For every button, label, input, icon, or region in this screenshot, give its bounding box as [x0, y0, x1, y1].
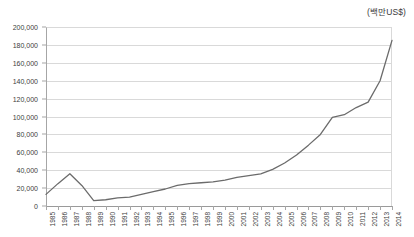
x-axis-tickmark — [237, 206, 238, 210]
x-axis-tick-label: 1985 — [49, 212, 56, 226]
x-axis-tickmark — [225, 206, 226, 210]
x-axis-tick-label: 2013 — [383, 212, 390, 226]
chart-root: (백만US$) 200,000180,000160,000140,000120,… — [0, 0, 414, 237]
x-axis-tickmark — [285, 206, 286, 210]
x-axis-tickmark — [273, 206, 274, 210]
x-axis-tickmark — [392, 206, 393, 210]
x-axis-tick-label: 1993 — [144, 212, 151, 226]
x-axis-tick-label: 1988 — [85, 212, 92, 226]
x-axis-tick-label: 2011 — [359, 212, 366, 226]
x-axis-tickmark — [332, 206, 333, 210]
x-axis-tickmark — [368, 206, 369, 210]
x-axis-tick-label: 2004 — [276, 212, 283, 226]
plot-area — [46, 27, 392, 206]
x-axis-tick-label: 1989 — [97, 212, 104, 226]
x-axis-tickmark — [380, 206, 381, 210]
x-axis-tick-label: 1995 — [168, 212, 175, 226]
x-axis-tick-label: 1994 — [156, 212, 163, 226]
x-axis-tickmark — [201, 206, 202, 210]
x-axis-tick-label: 1997 — [192, 212, 199, 226]
x-axis-tickmark — [153, 206, 154, 210]
x-axis-tick-label: 1992 — [133, 212, 140, 226]
x-axis-tickmark — [213, 206, 214, 210]
unit-caption: (백만US$) — [367, 5, 406, 17]
x-axis-tick-label: 1987 — [73, 212, 80, 226]
x-axis-tick-label: 2012 — [371, 212, 378, 226]
x-axis-tickmark — [118, 206, 119, 210]
x-axis-tickmark — [249, 206, 250, 210]
x-axis-tick-label: 1991 — [121, 212, 128, 226]
x-axis-tickmark — [94, 206, 95, 210]
x-axis-tickmark — [261, 206, 262, 210]
x-axis-tick-label: 2008 — [323, 212, 330, 226]
x-axis: 1985198619871988198919901991199219931994… — [46, 206, 392, 237]
x-axis-tickmark — [58, 206, 59, 210]
x-axis-tickmark — [141, 206, 142, 210]
x-axis-tickmark — [46, 206, 47, 210]
x-axis-tick-label: 1999 — [216, 212, 223, 226]
x-axis-tickmark — [189, 206, 190, 210]
x-axis-tick-label: 2014 — [395, 212, 402, 226]
x-axis-tickmark — [106, 206, 107, 210]
x-axis-tick-label: 2010 — [347, 212, 354, 226]
x-axis-tickmark — [308, 206, 309, 210]
x-axis-tick-label: 2009 — [335, 212, 342, 226]
x-axis-tickmark — [320, 206, 321, 210]
x-axis-tickmark — [177, 206, 178, 210]
series-line — [46, 40, 392, 200]
x-axis-tickmark — [130, 206, 131, 210]
y-axis-tickmarks — [0, 27, 46, 206]
x-axis-tick-label: 2006 — [300, 212, 307, 226]
x-axis-tick-label: 2003 — [264, 212, 271, 226]
x-axis-tickmark — [165, 206, 166, 210]
x-axis-tickmark — [344, 206, 345, 210]
x-axis-tickmark — [297, 206, 298, 210]
x-axis-tick-label: 2002 — [252, 212, 259, 226]
x-axis-tickmark — [356, 206, 357, 210]
x-axis-tick-label: 1996 — [180, 212, 187, 226]
x-axis-tick-label: 1990 — [109, 212, 116, 226]
x-axis-tick-label: 2005 — [288, 212, 295, 226]
x-axis-tick-label: 2001 — [240, 212, 247, 226]
x-axis-tick-label: 1998 — [204, 212, 211, 226]
line-series — [46, 27, 392, 206]
x-axis-tick-label: 1986 — [61, 212, 68, 226]
x-axis-tickmark — [82, 206, 83, 210]
x-axis-tick-label: 2000 — [228, 212, 235, 226]
x-axis-tick-label: 2007 — [311, 212, 318, 226]
x-axis-tickmark — [70, 206, 71, 210]
